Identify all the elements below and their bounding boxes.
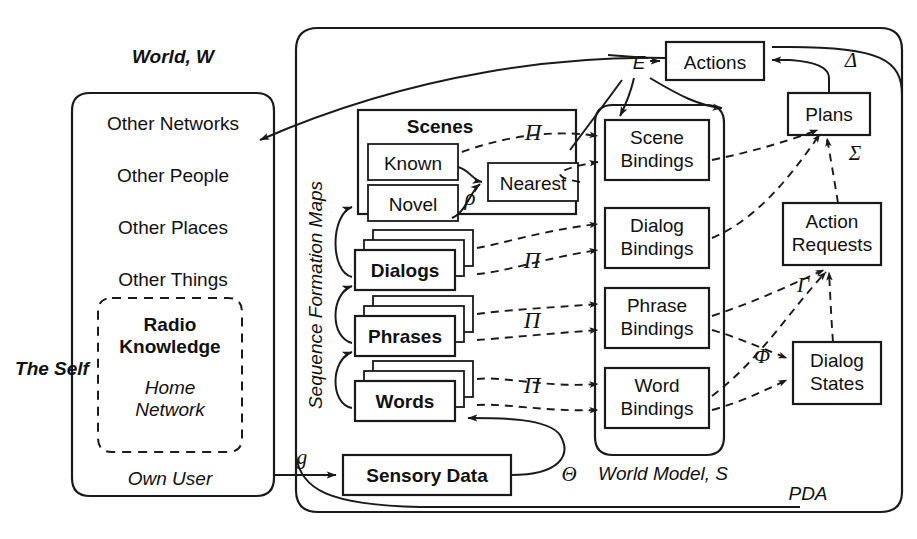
scenes-pi-symbol: Π — [524, 120, 543, 145]
dialog-bindings-line1: Dialog — [630, 215, 684, 236]
theta-symbol: Θ — [561, 462, 576, 486]
phi-symbol: Φ — [754, 344, 770, 368]
world-item-0: Other Networks — [107, 113, 239, 134]
radio-knowledge-line2: Knowledge — [119, 336, 220, 357]
phrases-to-dialogs-arrow — [336, 286, 353, 343]
world-title: World, W — [132, 46, 216, 67]
own-user-label: Own User — [128, 468, 213, 489]
known-label: Known — [384, 153, 442, 174]
plans-label: Plans — [805, 104, 853, 125]
dialogs-to-scenes-arrow — [336, 207, 353, 277]
phrases-label: Phrases — [368, 326, 442, 347]
scenes-title: Scenes — [407, 116, 474, 137]
gamma-symbol: Γ — [796, 273, 810, 297]
dialogs-pi-symbol: Π — [523, 248, 542, 273]
architecture-diagram: World, W Other Networks Other People Oth… — [0, 0, 917, 539]
phrases-pi-symbol: Π — [523, 308, 542, 333]
word-bindings-line2: Bindings — [621, 398, 694, 419]
dialog-states-line2: States — [810, 373, 864, 394]
sequence-formation-maps-label: Sequence Formation Maps — [305, 180, 326, 409]
dialogs-to-dialog-bindings-upper — [477, 224, 598, 248]
world-container — [72, 93, 274, 496]
pda-right-loop — [772, 47, 902, 95]
E-symbol: E — [633, 52, 646, 73]
E-branch-down-left — [620, 78, 634, 116]
dialog-bindings-line2: Bindings — [621, 238, 694, 259]
phrase-bindings-line1: Phrase — [627, 295, 687, 316]
E-branch-down-right — [650, 78, 722, 108]
pda-label: PDA — [788, 483, 827, 504]
word-bindings-line1: Word — [634, 375, 679, 396]
plans-to-actions-arrow — [772, 60, 829, 93]
rho-symbol: ρ — [463, 185, 475, 210]
words-pi-symbol: Π — [523, 373, 542, 398]
dialog-states-to-action-requests — [829, 272, 833, 342]
action-requests-line1: Action — [806, 211, 859, 232]
actions-label: Actions — [684, 52, 746, 73]
diagram-canvas: World, W Other Networks Other People Oth… — [0, 0, 917, 539]
the-self-label: The Self — [15, 358, 91, 379]
sigma-symbol: Σ — [848, 141, 862, 165]
world-model-label: World Model, S — [598, 463, 728, 484]
radio-knowledge-line1: Radio — [144, 314, 197, 335]
world-item-1: Other People — [117, 165, 229, 186]
world-item-2: Other Places — [118, 217, 228, 238]
nearest-label: Nearest — [500, 173, 567, 194]
action-requests-to-plans — [827, 138, 838, 203]
phrase-bindings-line2: Bindings — [621, 318, 694, 339]
scene-bindings-line2: Bindings — [621, 150, 694, 171]
home-network-line2: Network — [135, 399, 206, 420]
dialogs-label: Dialogs — [371, 260, 440, 281]
words-to-word-bindings-lower — [477, 405, 598, 411]
dialog-states-line1: Dialog — [810, 350, 864, 371]
scene-bindings-line1: Scene — [630, 127, 684, 148]
sensory-data-label: Sensory Data — [366, 465, 488, 486]
words-label: Words — [376, 391, 435, 412]
novel-label: Novel — [389, 194, 438, 215]
action-requests-line2: Requests — [792, 234, 872, 255]
home-network-line1: Home — [145, 377, 196, 398]
world-item-3: Other Things — [118, 269, 227, 290]
words-to-phrases-arrow — [336, 352, 353, 408]
